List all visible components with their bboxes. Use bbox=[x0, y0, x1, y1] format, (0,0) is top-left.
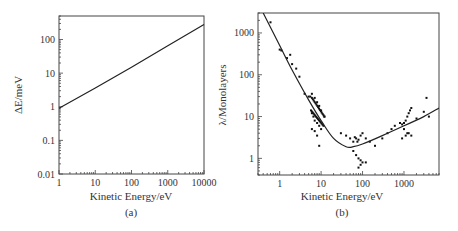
x-tick-label: 10 bbox=[90, 177, 100, 188]
data-point bbox=[314, 130, 316, 132]
axis-ticks-b bbox=[258, 13, 439, 175]
data-point bbox=[360, 164, 362, 166]
data-point bbox=[312, 116, 314, 118]
chart-panel-a: 1101001000100000.010.1110100 Kinetic Ene… bbox=[12, 16, 217, 219]
data-point bbox=[365, 137, 367, 139]
y-tick-label: 10 bbox=[244, 111, 254, 122]
data-point bbox=[405, 135, 407, 137]
y-axis-label-a: ΔE/meV bbox=[12, 76, 24, 114]
data-point bbox=[362, 161, 364, 163]
y-tick-label: 0.1 bbox=[43, 135, 56, 146]
panel-label-a: (a) bbox=[125, 206, 138, 219]
y-tick-label: 100 bbox=[239, 69, 254, 80]
data-point bbox=[410, 135, 412, 137]
data-point bbox=[340, 132, 342, 134]
y-tick-label: 10 bbox=[45, 68, 55, 79]
data-point bbox=[358, 157, 360, 159]
figure: 1101001000100000.010.1110100 Kinetic Ene… bbox=[0, 0, 458, 231]
y-tick-label: 1000 bbox=[234, 27, 254, 38]
data-point bbox=[365, 161, 367, 163]
data-point bbox=[318, 125, 320, 127]
data-point bbox=[374, 145, 376, 147]
data-point bbox=[403, 128, 405, 130]
x-axis-label-b: Kinetic Energy/eV bbox=[301, 190, 384, 202]
data-point bbox=[423, 111, 425, 113]
data-point bbox=[355, 137, 357, 139]
x-tick-label: 100 bbox=[355, 178, 370, 189]
data-point bbox=[314, 97, 316, 99]
data-point bbox=[406, 116, 408, 118]
chart-panel-b: 11010010001101001000 Kinetic Energy/eV (… bbox=[216, 13, 439, 219]
data-point bbox=[399, 122, 401, 124]
data-point bbox=[345, 135, 347, 137]
x-tick-label: 10 bbox=[316, 178, 326, 189]
data-point bbox=[349, 137, 351, 139]
data-point bbox=[352, 150, 354, 152]
data-point bbox=[311, 128, 313, 130]
data-point bbox=[291, 63, 293, 65]
panel-label-b: (b) bbox=[336, 206, 349, 219]
data-point bbox=[270, 21, 272, 23]
data-point bbox=[360, 135, 362, 137]
data-point bbox=[295, 68, 297, 70]
data-point bbox=[410, 107, 412, 109]
data-point bbox=[391, 128, 393, 130]
data-point bbox=[408, 112, 410, 114]
data-point bbox=[403, 122, 405, 124]
y-tick-label: 1 bbox=[50, 101, 55, 112]
data-point bbox=[320, 128, 322, 130]
data-point bbox=[394, 125, 396, 127]
delta-e-line bbox=[59, 25, 204, 109]
data-point bbox=[311, 93, 313, 95]
data-point bbox=[428, 116, 430, 118]
tick-labels-a: 1101001000100000.010.1110100 bbox=[38, 34, 217, 188]
x-tick-label: 1 bbox=[57, 177, 62, 188]
data-point bbox=[356, 141, 358, 143]
y-tick-label: 1 bbox=[249, 153, 254, 164]
x-tick-label: 1 bbox=[277, 178, 282, 189]
data-point bbox=[362, 132, 364, 134]
x-axis-label-a: Kinetic Energy/eV bbox=[90, 190, 173, 202]
data-point bbox=[355, 154, 357, 156]
data-point bbox=[352, 141, 354, 143]
data-point bbox=[401, 137, 403, 139]
data-point bbox=[409, 109, 411, 111]
y-tick-label: 0.01 bbox=[38, 169, 56, 180]
plot-frame-b bbox=[258, 13, 439, 175]
data-point bbox=[401, 123, 403, 125]
data-point bbox=[358, 167, 360, 169]
plot-frame-a bbox=[59, 16, 204, 174]
data-point bbox=[323, 116, 325, 118]
universal-curve bbox=[263, 13, 439, 147]
y-axis-label-b: λ/Monolayers bbox=[216, 65, 228, 126]
data-point bbox=[405, 120, 407, 122]
axis-ticks-a bbox=[59, 16, 204, 174]
data-point bbox=[358, 139, 360, 141]
data-point bbox=[360, 159, 362, 161]
y-tick-label: 100 bbox=[40, 34, 55, 45]
x-tick-label: 10000 bbox=[192, 177, 217, 188]
x-tick-label: 100 bbox=[124, 177, 139, 188]
data-point bbox=[289, 54, 291, 56]
tick-labels-b: 11010010001101001000 bbox=[234, 27, 414, 189]
data-point bbox=[298, 76, 300, 78]
data-point bbox=[318, 145, 320, 147]
x-tick-label: 1000 bbox=[158, 177, 178, 188]
data-point bbox=[408, 132, 410, 134]
data-point bbox=[316, 122, 318, 124]
measurement-points bbox=[270, 21, 430, 168]
data-point bbox=[314, 120, 316, 122]
data-point bbox=[316, 135, 318, 137]
x-tick-label: 1000 bbox=[394, 178, 414, 189]
data-point bbox=[426, 97, 428, 99]
data-point bbox=[381, 137, 383, 139]
